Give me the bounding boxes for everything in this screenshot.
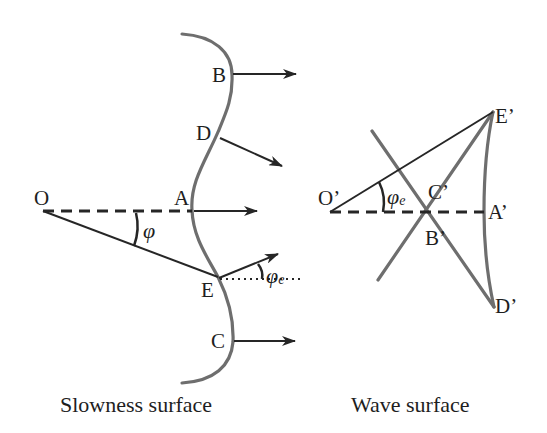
angle-phi-e-arc — [258, 264, 262, 279]
point-label-d-prime: D’ — [495, 294, 517, 318]
point-label-b: B — [212, 63, 226, 87]
point-label-c-prime: C’ — [428, 180, 449, 204]
angle-phi-arc — [134, 213, 138, 246]
normal-arrow-d — [220, 138, 282, 166]
ray-line-oe-prime — [330, 112, 493, 212]
slowness-and-wave-surface-diagram: O A B D E C φ φe Slowness surface O’ E’ … — [0, 0, 547, 433]
caption-slowness-surface: Slowness surface — [60, 392, 212, 417]
wave-angle-phi-e-arc — [379, 182, 384, 212]
angle-label-phi: φ — [143, 218, 155, 243]
point-label-a: A — [174, 186, 190, 210]
wave-surface-panel: O’ E’ C’ A’ B’ D’ φe Wave surface — [318, 104, 517, 417]
wave-angle-label-phi-e: φe — [387, 184, 405, 209]
point-label-e: E — [201, 278, 214, 302]
wave-branch-c-d — [372, 131, 494, 307]
point-label-o: O — [34, 186, 49, 210]
caption-wave-surface: Wave surface — [351, 392, 470, 417]
point-label-e-prime: E’ — [495, 104, 515, 128]
point-label-a-prime: A’ — [488, 200, 508, 224]
point-label-d: D — [196, 121, 211, 145]
point-label-o-prime: O’ — [318, 186, 340, 210]
point-label-c: C — [211, 329, 225, 353]
slowness-surface-panel: O A B D E C φ φe Slowness surface — [34, 34, 300, 417]
point-label-b-prime: B’ — [425, 226, 446, 250]
angle-label-phi-e: φe — [266, 263, 284, 288]
